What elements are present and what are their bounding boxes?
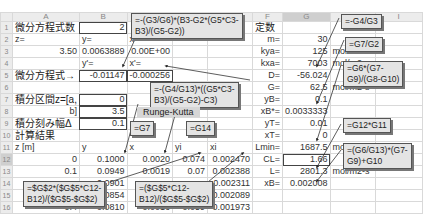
row-header[interactable]: 14 <box>1 178 13 190</box>
cell-b9[interactable]: 0.1 <box>79 118 127 130</box>
cell-i15[interactable] <box>375 190 422 202</box>
cell-g3[interactable]: 125 <box>283 46 331 58</box>
cell-b5[interactable]: -0.01147 <box>79 70 127 82</box>
cell-c11[interactable]: x <box>127 142 173 154</box>
column-header-a[interactable]: A <box>13 13 80 22</box>
cell-g9[interactable]: 0.01 <box>283 118 331 130</box>
cell-e14[interactable]: 0.002311 <box>208 178 253 190</box>
cell-b6[interactable] <box>79 82 127 94</box>
cell-e13[interactable]: 0.002388 <box>208 166 253 178</box>
cell-g1[interactable] <box>283 22 331 34</box>
cell-c13[interactable]: 0.0019 <box>127 166 173 178</box>
cell-a9[interactable]: 積分刻み幅Δ <box>13 118 80 130</box>
cell-c4[interactable]: x'= <box>127 58 173 70</box>
cell-f11[interactable]: Lmin= <box>253 142 283 154</box>
cell-f4[interactable]: kxa= <box>253 58 283 70</box>
cell-b12[interactable]: 0.1000 <box>79 154 127 166</box>
cell-a3[interactable]: 3.50 <box>13 46 80 58</box>
column-header-g[interactable]: G <box>283 13 331 22</box>
row-header[interactable]: 5 <box>1 70 13 82</box>
cell-f10[interactable]: xT= <box>253 130 283 142</box>
cell-d4[interactable] <box>173 58 208 70</box>
cell-h8[interactable] <box>330 106 375 118</box>
row-header[interactable]: 8 <box>1 106 13 118</box>
cell-f12[interactable]: CL= <box>253 154 283 166</box>
cell-e15[interactable]: 0.002089 <box>208 190 253 202</box>
cell-f6[interactable]: G= <box>253 82 283 94</box>
cell-h15[interactable] <box>330 190 375 202</box>
cell-b7[interactable]: 0 <box>79 94 127 106</box>
row-header[interactable]: 11 <box>1 142 13 154</box>
cell-e16[interactable]: 0.001973 <box>208 202 253 214</box>
cell-d11[interactable]: yi <box>173 142 208 154</box>
cell-i8[interactable] <box>375 106 422 118</box>
cell-b11[interactable]: y <box>79 142 127 154</box>
cell-a11[interactable]: z [m] <box>13 142 80 154</box>
cell-g8[interactable]: 0.0033333 <box>283 106 331 118</box>
cell-c3[interactable]: 0.00E+00 <box>127 46 173 58</box>
cell-d13[interactable]: 0.07 <box>173 166 208 178</box>
cell-b2[interactable]: y= <box>79 34 127 46</box>
cell-h16[interactable] <box>330 202 375 214</box>
cell-c5[interactable]: -0.000256 <box>127 70 173 82</box>
row-header[interactable]: 13 <box>1 166 13 178</box>
cell-g4[interactable]: 7003 <box>283 58 331 70</box>
cell-d3[interactable] <box>173 46 208 58</box>
cell-g5[interactable]: -56.024 <box>283 70 331 82</box>
cell-a10[interactable]: 計算結果 <box>13 130 80 142</box>
cell-g6[interactable]: 62.5 <box>283 82 331 94</box>
cell-g2[interactable]: 30 <box>283 34 331 46</box>
cell-f5[interactable]: D= <box>253 70 283 82</box>
cell-b4[interactable]: y'= <box>79 58 127 70</box>
cell-i7[interactable] <box>375 94 422 106</box>
cell-i14[interactable] <box>375 178 422 190</box>
cell-a4[interactable] <box>13 58 80 70</box>
cell-g13[interactable]: 2801.3 <box>283 166 331 178</box>
cell-b10[interactable] <box>79 130 127 142</box>
row-header[interactable]: 6 <box>1 82 13 94</box>
cell-h7[interactable] <box>330 94 375 106</box>
cell-g7[interactable]: 0.1 <box>283 94 331 106</box>
row-header[interactable]: 10 <box>1 130 13 142</box>
cell-g10[interactable]: 0 <box>283 130 331 142</box>
cell-e12[interactable]: 0.002470 <box>208 154 253 166</box>
row-header[interactable]: 4 <box>1 58 13 70</box>
cell-h14[interactable] <box>330 178 375 190</box>
cell-i16[interactable] <box>375 202 422 214</box>
cell-f7[interactable]: yB= <box>253 94 283 106</box>
cell-e11[interactable]: xi <box>208 142 253 154</box>
cell-b3[interactable]: 0.0063889 <box>79 46 127 58</box>
column-header-i[interactable]: I <box>375 13 422 22</box>
cell-a5[interactable]: 微分方程式→ <box>13 70 80 82</box>
cell-i1[interactable] <box>375 22 422 34</box>
cell-a6[interactable] <box>13 82 80 94</box>
cell-b8[interactable]: 3.5 <box>79 106 127 118</box>
cell-f15[interactable] <box>253 190 283 202</box>
row-header[interactable]: 9 <box>1 118 13 130</box>
select-all-corner[interactable] <box>1 13 13 22</box>
cell-c12[interactable]: 0.0020 <box>127 154 173 166</box>
cell-d5[interactable] <box>173 70 208 82</box>
cell-g14[interactable]: 0.002008 <box>283 178 331 190</box>
row-header[interactable]: 3 <box>1 46 13 58</box>
cell-e4[interactable] <box>208 58 253 70</box>
cell-f13[interactable]: L= <box>253 166 283 178</box>
row-header[interactable]: 16 <box>1 202 13 214</box>
row-header[interactable]: 7 <box>1 94 13 106</box>
cell-e3[interactable] <box>208 46 253 58</box>
row-header[interactable]: 15 <box>1 190 13 202</box>
column-header-b[interactable]: B <box>79 13 127 22</box>
cell-a13[interactable]: 0.1 <box>13 166 80 178</box>
column-header-f[interactable]: F <box>253 13 283 22</box>
cell-a7[interactable]: 積分区間z=[a, <box>13 94 80 106</box>
cell-f1[interactable]: 定数 <box>253 22 283 34</box>
cell-f2[interactable]: m= <box>253 34 283 46</box>
cell-g11[interactable]: 1687.5 <box>283 142 331 154</box>
row-header[interactable]: 2 <box>1 34 13 46</box>
row-header[interactable]: 12 <box>1 154 13 166</box>
cell-e5[interactable] <box>208 70 253 82</box>
cell-d12[interactable]: 0.074 <box>173 154 208 166</box>
cell-f14[interactable]: xB= <box>253 178 283 190</box>
cell-f8[interactable]: xB*= <box>253 106 283 118</box>
cell-f3[interactable]: kya= <box>253 46 283 58</box>
